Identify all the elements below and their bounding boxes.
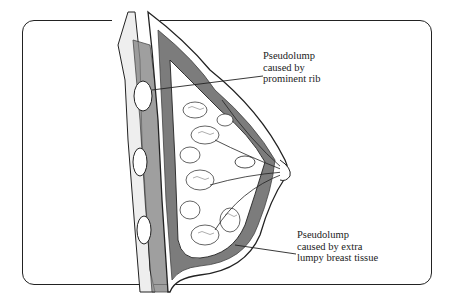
label-pseudolump-tissue: Pseudolump caused by extra lumpy breast … <box>297 229 378 264</box>
label-pseudolump-rib: Pseudolump caused by prominent rib <box>263 50 320 85</box>
breast-cross-section-illustration <box>0 0 453 296</box>
